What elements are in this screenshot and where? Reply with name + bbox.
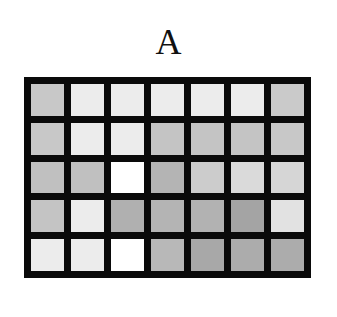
grid-cell-r4-c3 xyxy=(111,200,144,232)
grid-cell-r3-c1 xyxy=(31,162,64,194)
grid-cell-r3-c7 xyxy=(271,162,304,194)
grid-cell-r4-c7 xyxy=(271,200,304,232)
grid-cell-r4-c4 xyxy=(151,200,184,232)
grid-cell-r2-c1 xyxy=(31,123,64,155)
grid-cell-r5-c1 xyxy=(31,239,64,271)
grid-cell-r3-c2 xyxy=(71,162,104,194)
grid-cell-r5-c2 xyxy=(71,239,104,271)
grid-cell-r1-c5 xyxy=(191,84,224,116)
grayscale-grid xyxy=(24,77,311,278)
grid-cell-r4-c2 xyxy=(71,200,104,232)
grid-cell-r2-c4 xyxy=(151,123,184,155)
grid-cell-r2-c7 xyxy=(271,123,304,155)
grid-cell-r4-c5 xyxy=(191,200,224,232)
grid-cell-r1-c2 xyxy=(71,84,104,116)
grid-cell-r2-c2 xyxy=(71,123,104,155)
grid-cell-r3-c6 xyxy=(231,162,264,194)
figure-title: A xyxy=(0,22,337,62)
grid-cell-r5-c5 xyxy=(191,239,224,271)
grid-cell-r2-c6 xyxy=(231,123,264,155)
grid-cell-r1-c3 xyxy=(111,84,144,116)
grid-cell-r1-c7 xyxy=(271,84,304,116)
grid-cell-r5-c7 xyxy=(271,239,304,271)
grid-cell-r4-c1 xyxy=(31,200,64,232)
grid-cell-r2-c5 xyxy=(191,123,224,155)
grid-cell-r1-c1 xyxy=(31,84,64,116)
grid-cell-r3-c5 xyxy=(191,162,224,194)
grid-cell-r1-c6 xyxy=(231,84,264,116)
grid-cell-r5-c6 xyxy=(231,239,264,271)
grid-cell-r2-c3 xyxy=(111,123,144,155)
grid-cell-r5-c4 xyxy=(151,239,184,271)
grid-cell-r1-c4 xyxy=(151,84,184,116)
grid-cell-r3-c3 xyxy=(111,162,144,194)
grid-cell-r5-c3 xyxy=(111,239,144,271)
grid-cell-r3-c4 xyxy=(151,162,184,194)
grid-cell-r4-c6 xyxy=(231,200,264,232)
